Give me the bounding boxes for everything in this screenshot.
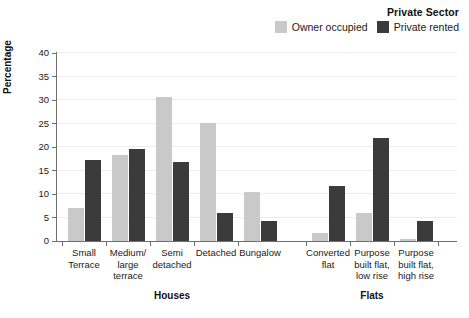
bar-private-rented bbox=[329, 186, 345, 241]
x-axis-tick bbox=[306, 241, 307, 246]
bar-series-container bbox=[57, 53, 457, 241]
x-axis-tick bbox=[194, 241, 195, 246]
y-axis-tick-label: 35 bbox=[0, 71, 56, 82]
section-label-flats: Flats bbox=[306, 290, 438, 301]
bar-private-rented bbox=[85, 160, 101, 241]
x-axis-tick bbox=[238, 241, 239, 246]
legend-entry-owner-occupied: Owner occupied bbox=[275, 21, 368, 33]
section-label-houses: Houses bbox=[62, 290, 282, 301]
legend-label-private-rented: Private rented bbox=[394, 21, 459, 33]
legend-title: Private Sector bbox=[275, 6, 459, 18]
bar-private-rented bbox=[173, 162, 189, 241]
bar-owner-occupied bbox=[244, 192, 260, 241]
bar-chart: Private Sector Owner occupied Private re… bbox=[0, 0, 469, 318]
bar-private-rented bbox=[417, 221, 433, 241]
chart-legend: Private Sector Owner occupied Private re… bbox=[275, 6, 459, 33]
y-axis-tick-label: 25 bbox=[0, 118, 56, 129]
y-axis-tick-label: 10 bbox=[0, 188, 56, 199]
x-axis-tick bbox=[394, 241, 395, 246]
x-axis-tick bbox=[350, 241, 351, 246]
x-axis-category-label: Semidetached bbox=[150, 247, 194, 270]
bar-owner-occupied bbox=[68, 208, 84, 241]
y-axis-tick-label: 40 bbox=[0, 47, 56, 58]
bar-private-rented bbox=[261, 221, 277, 241]
x-axis-tick bbox=[106, 241, 107, 246]
x-axis-category-labels: SmallTerraceMedium/largeterraceSemidetac… bbox=[0, 247, 469, 293]
plot-area bbox=[57, 53, 457, 241]
x-axis-category-label: Purposebuilt flat,high rise bbox=[394, 247, 438, 282]
x-axis-category-label: SmallTerrace bbox=[62, 247, 106, 270]
x-axis-category-label: Detached bbox=[194, 247, 238, 259]
legend-swatch-owner-occupied bbox=[275, 21, 287, 33]
legend-entry-private-rented: Private rented bbox=[377, 21, 459, 33]
legend-swatch-private-rented bbox=[377, 21, 389, 33]
y-axis-tick-label: 5 bbox=[0, 212, 56, 223]
bar-owner-occupied bbox=[312, 233, 328, 241]
bar-private-rented bbox=[373, 138, 389, 241]
bar-owner-occupied bbox=[200, 123, 216, 241]
bar-owner-occupied bbox=[156, 97, 172, 241]
y-axis-tick-label: 30 bbox=[0, 94, 56, 105]
bar-private-rented bbox=[217, 213, 233, 241]
legend-label-owner-occupied: Owner occupied bbox=[292, 21, 368, 33]
x-axis-category-label: Medium/largeterrace bbox=[106, 247, 150, 282]
bar-private-rented bbox=[129, 149, 145, 241]
y-axis-ticks: 0510152025303540 bbox=[0, 0, 56, 241]
x-axis-tick bbox=[438, 241, 439, 246]
x-axis-tick bbox=[62, 241, 63, 246]
legend-items: Owner occupied Private rented bbox=[275, 21, 459, 33]
x-axis-category-label: Convertedflat bbox=[306, 247, 350, 270]
y-axis-tick-label: 15 bbox=[0, 165, 56, 176]
x-axis-category-label: Purposebuilt flat,low rise bbox=[350, 247, 394, 282]
x-axis-tick bbox=[150, 241, 151, 246]
x-axis-category-label: Bungalow bbox=[238, 247, 282, 259]
bar-owner-occupied bbox=[112, 155, 128, 241]
bar-owner-occupied bbox=[356, 213, 372, 241]
y-axis-tick-label: 20 bbox=[0, 141, 56, 152]
